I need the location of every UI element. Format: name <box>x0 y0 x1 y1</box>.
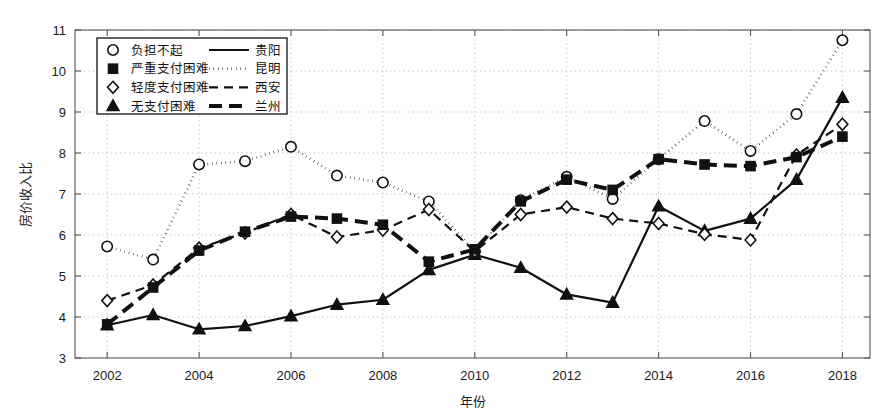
legend-city-label: 昆明 <box>255 61 281 76</box>
x-tick-label: 2010 <box>460 368 489 383</box>
data-point-square <box>746 162 755 171</box>
data-point-circle <box>791 109 801 119</box>
legend-marker-label: 负担不起 <box>131 43 183 58</box>
data-point-square <box>240 227 249 236</box>
data-point-square <box>194 246 203 255</box>
x-tick-label: 2008 <box>368 368 397 383</box>
data-point-square <box>108 64 117 73</box>
data-point-circle <box>837 35 847 45</box>
x-axis-title: 年份 <box>460 394 486 409</box>
y-tick-label: 11 <box>53 23 67 38</box>
data-point-circle <box>148 254 158 264</box>
data-point-circle <box>108 45 118 55</box>
y-tick-label: 7 <box>59 187 66 202</box>
legend-city-label: 贵阳 <box>255 43 281 58</box>
y-tick-label: 9 <box>59 105 66 120</box>
legend-city-label: 西安 <box>255 80 281 95</box>
data-point-circle <box>102 241 112 251</box>
data-point-square <box>608 185 617 194</box>
data-point-circle <box>607 194 617 204</box>
legend-marker-label: 无支付困难 <box>131 99 196 114</box>
x-tick-label: 2018 <box>828 368 857 383</box>
y-tick-label: 5 <box>59 269 66 284</box>
data-point-circle <box>286 142 296 152</box>
data-point-circle <box>240 156 250 166</box>
x-tick-label: 2012 <box>552 368 581 383</box>
data-point-square <box>103 320 112 329</box>
legend-marker-label: 轻度支付困难 <box>131 80 209 95</box>
data-point-circle <box>194 159 204 169</box>
house-price-income-ratio-line-chart: 200220042006200820102012201420162018 345… <box>0 0 893 417</box>
legend-marker-label: 严重支付困难 <box>131 61 209 76</box>
y-axis-title: 房价收入比 <box>18 162 33 227</box>
chart-container: 200220042006200820102012201420162018 345… <box>0 0 893 417</box>
y-tick-label: 6 <box>59 228 66 243</box>
data-point-square <box>792 153 801 162</box>
x-axis-tick-labels: 200220042006200820102012201420162018 <box>93 368 857 383</box>
y-tick-label: 10 <box>52 64 66 79</box>
legend: 负担不起贵阳严重支付困难昆明轻度支付困难西安无支付困难兰州 <box>97 38 287 114</box>
data-point-circle <box>745 146 755 156</box>
y-tick-label: 8 <box>59 146 66 161</box>
data-point-circle <box>332 170 342 180</box>
data-point-square <box>286 212 295 221</box>
data-point-circle <box>699 116 709 126</box>
data-point-square <box>149 283 158 292</box>
data-point-square <box>838 132 847 141</box>
x-tick-label: 2016 <box>736 368 765 383</box>
y-tick-label: 4 <box>59 310 66 325</box>
data-point-circle <box>378 177 388 187</box>
data-point-square <box>654 155 663 164</box>
data-point-square <box>700 160 709 169</box>
data-point-square <box>378 220 387 229</box>
x-tick-label: 2006 <box>277 368 306 383</box>
x-tick-label: 2002 <box>93 368 122 383</box>
data-point-square <box>516 197 525 206</box>
legend-city-label: 兰州 <box>255 99 281 114</box>
y-tick-label: 3 <box>59 351 66 366</box>
data-point-square <box>470 245 479 254</box>
x-tick-label: 2004 <box>185 368 214 383</box>
x-tick-label: 2014 <box>644 368 673 383</box>
data-point-square <box>332 214 341 223</box>
data-point-square <box>562 175 571 184</box>
data-point-square <box>424 257 433 266</box>
